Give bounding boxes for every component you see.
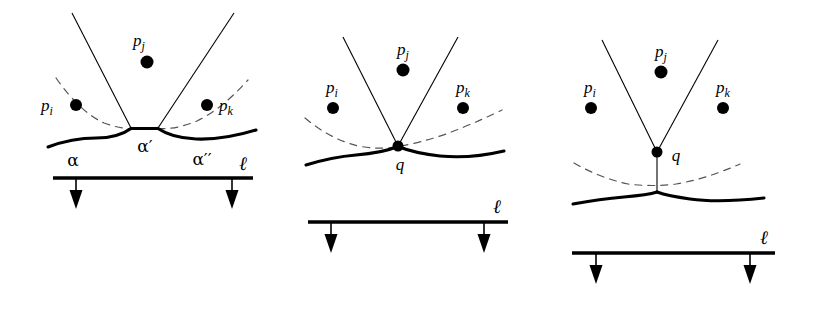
- voronoi-vertex-dot-q: [652, 147, 663, 158]
- site-dot-p-k: [717, 102, 729, 114]
- beachline-arc-alpha: [48, 129, 131, 148]
- voronoi-ray-left: [72, 13, 131, 128]
- site-label-p-i: pi: [583, 78, 596, 100]
- sweep-line-label: ℓ: [760, 227, 768, 248]
- sweep-arrow-left: [590, 253, 603, 284]
- site-dot-p-j: [141, 56, 154, 69]
- diagram-canvas: pi pj pk α α′ α′′ ℓ: [0, 0, 817, 310]
- panel-left: pi pj pk α α′ α′′ ℓ: [40, 13, 256, 209]
- arc-label-alpha-double-prime: α′′: [192, 149, 211, 169]
- event-point-label-q: q: [396, 155, 405, 174]
- site-label-p-j: pj: [654, 42, 668, 64]
- fortune-algorithm-circle-event-figure: pi pj pk α α′ α′′ ℓ: [0, 0, 817, 310]
- beachline-arc-alpha-double-prime: [398, 147, 504, 157]
- panel-right: q pi pj pk ℓ: [572, 40, 775, 284]
- arc-label-alpha-prime: α′: [137, 136, 152, 156]
- sweep-line-label: ℓ: [239, 153, 247, 174]
- beachline-arc-alpha-double-prime: [158, 129, 256, 140]
- dashed-arc-left-branch: [56, 78, 131, 129]
- site-label-p-j: pj: [132, 31, 146, 53]
- sweep-arrow-right: [226, 178, 239, 209]
- sweep-arrow-left: [70, 178, 83, 209]
- dashed-arc-p-j: [305, 110, 502, 148]
- sweep-arrow-right: [478, 222, 491, 253]
- site-label-p-k: pk: [455, 78, 471, 100]
- site-dot-p-k: [457, 102, 469, 114]
- site-dot-p-i: [585, 102, 597, 114]
- voronoi-ray-left: [602, 40, 657, 152]
- beachline-arc-alpha: [306, 147, 398, 166]
- panel-middle: q pi pj pk ℓ: [305, 37, 508, 253]
- site-dot-p-i: [327, 102, 339, 114]
- sweep-arrow-left: [325, 222, 338, 253]
- site-dot-p-i: [70, 99, 82, 111]
- sweep-line-label: ℓ: [493, 196, 501, 217]
- site-label-p-k: pk: [218, 96, 234, 118]
- site-dot-p-k: [201, 99, 213, 111]
- event-point-dot-q: [393, 141, 404, 152]
- site-label-p-i: pi: [325, 78, 338, 100]
- voronoi-vertex-label-q: q: [672, 146, 681, 165]
- sweep-arrow-right: [744, 253, 757, 284]
- site-dot-p-j: [655, 66, 668, 79]
- site-label-p-i: pi: [40, 96, 53, 118]
- beachline-arc-alpha-double-prime: [657, 192, 764, 201]
- arc-label-alpha: α: [67, 150, 79, 170]
- site-dot-p-j: [397, 64, 410, 77]
- site-label-p-k: pk: [715, 78, 731, 100]
- voronoi-ray-left: [343, 37, 398, 146]
- site-label-p-j: pj: [396, 40, 410, 62]
- beachline-arc-alpha: [573, 192, 657, 204]
